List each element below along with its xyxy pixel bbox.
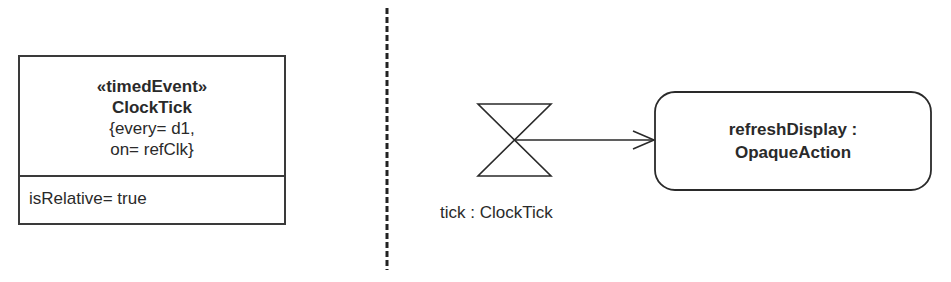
class-header: «timedEvent» ClockTick {every= d1, on= r… xyxy=(20,57,284,177)
constraint-line: {every= d1, xyxy=(20,118,284,139)
timed-event-class-box[interactable]: «timedEvent» ClockTick {every= d1, on= r… xyxy=(18,55,286,225)
action-type: OpaqueAction xyxy=(735,141,851,164)
action-node[interactable]: refreshDisplay : OpaqueAction xyxy=(655,92,931,190)
stereotype-label: «timedEvent» xyxy=(20,76,284,97)
time-event-label: tick : ClockTick xyxy=(440,203,553,223)
action-name: refreshDisplay : xyxy=(729,118,858,141)
attribute-item: isRelative= true xyxy=(29,189,284,209)
control-flow-arrow[interactable] xyxy=(514,131,654,149)
attribute-compartment: isRelative= true xyxy=(20,177,284,209)
class-name: ClockTick xyxy=(20,97,284,118)
constraint-line: on= refClk} xyxy=(20,139,284,160)
